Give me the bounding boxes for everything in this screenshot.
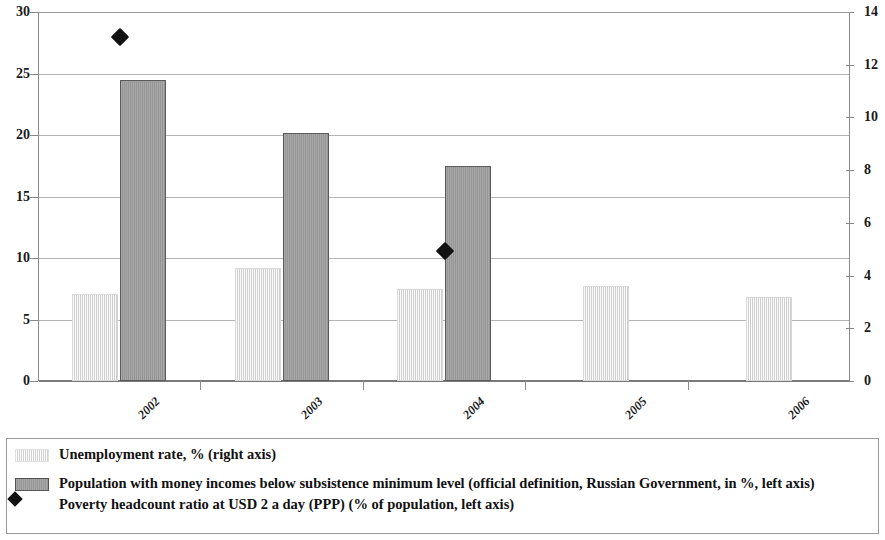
dark-bar-swatch-icon: [15, 478, 49, 491]
left-axis-tick-label: 10: [16, 251, 30, 265]
left-axis: 051015202530: [0, 0, 30, 400]
x-axis-category-label: 2005: [622, 394, 650, 422]
x-axis-category-label: 2002: [135, 394, 163, 422]
bar-unemployment-2002: [72, 294, 118, 381]
left-axis-tick: [30, 258, 38, 259]
legend-label-unemployment: Unemployment rate, % (right axis): [59, 446, 870, 463]
x-axis-tick: [363, 381, 364, 390]
legend-item-headcount-ratio: Poverty headcount ratio at USD 2 a day (…: [15, 496, 870, 513]
x-axis-tick: [525, 381, 526, 390]
plot-area: 051015202530 02468101214 200220032004200…: [0, 0, 885, 400]
left-axis-tick: [30, 135, 38, 136]
right-axis-tick-label: 8: [864, 163, 871, 177]
right-axis-tick-label: 2: [864, 321, 871, 335]
legend-swatch-cell: [15, 446, 59, 462]
legend-swatch-cell: [15, 496, 59, 499]
x-axis-category-label: 2004: [460, 394, 488, 422]
bars-layer: [38, 12, 850, 381]
left-axis-tick: [30, 197, 38, 198]
bar-subsistence-2004: [445, 166, 491, 381]
right-axis-tick-label: 10: [864, 110, 878, 124]
x-axis-category-label: 2003: [298, 394, 326, 422]
light-bar-swatch-icon: [15, 449, 49, 462]
right-axis-tick-label: 6: [864, 216, 871, 230]
chart-legend: Unemployment rate, % (right axis) Popula…: [6, 438, 879, 534]
left-axis-tick-label: 5: [23, 313, 30, 327]
left-axis-tick-label: 0: [23, 374, 30, 388]
bar-unemployment-2003: [235, 268, 281, 381]
left-axis-tick: [30, 74, 38, 75]
left-axis-tick: [30, 381, 38, 382]
right-axis: 02468101214: [850, 0, 884, 400]
legend-item-poverty-subsistence: Population with money incomes below subs…: [15, 475, 870, 492]
right-axis-tick-label: 0: [864, 374, 871, 388]
x-axis-tick: [200, 381, 201, 390]
legend-label-headcount-ratio: Poverty headcount ratio at USD 2 a day (…: [59, 496, 870, 513]
bar-subsistence-2002: [120, 80, 166, 381]
left-axis-tick: [30, 320, 38, 321]
legend-label-poverty-subsistence: Population with money incomes below subs…: [59, 475, 870, 492]
bar-unemployment-2004: [397, 289, 443, 381]
x-axis-category-label: 2006: [785, 394, 813, 422]
bar-subsistence-2003: [283, 133, 329, 381]
left-axis-tick: [30, 12, 38, 13]
left-axis-tick-label: 15: [16, 190, 30, 204]
legend-swatch-cell: [15, 475, 59, 491]
left-axis-tick-label: 20: [16, 128, 30, 142]
bar-unemployment-2006: [746, 297, 792, 381]
marker-headcount-2002: [111, 27, 129, 45]
right-axis-tick-label: 12: [864, 58, 878, 72]
right-axis-tick-label: 4: [864, 269, 871, 283]
legend-item-unemployment: Unemployment rate, % (right axis): [15, 446, 870, 463]
chart-figure: 051015202530 02468101214 200220032004200…: [0, 0, 885, 540]
right-axis-tick-label: 14: [864, 5, 878, 19]
left-axis-tick-label: 25: [16, 67, 30, 81]
bar-unemployment-2005: [583, 286, 629, 381]
x-axis-tick: [688, 381, 689, 390]
left-axis-tick-label: 30: [16, 5, 30, 19]
